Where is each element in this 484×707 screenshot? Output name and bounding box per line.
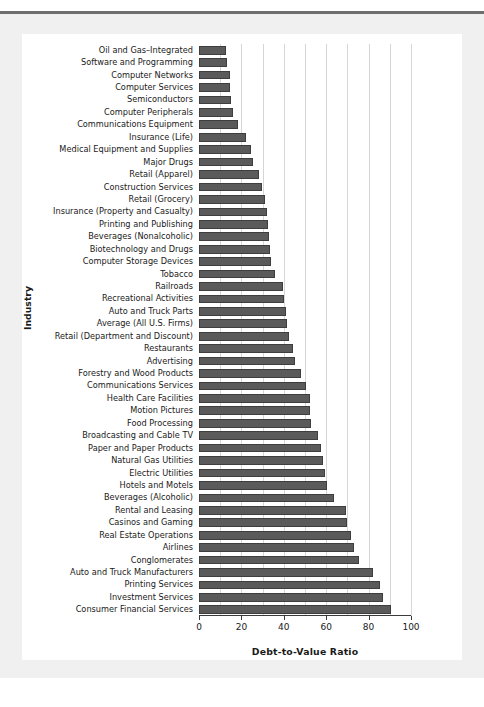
bar-row: Software and Programming bbox=[199, 58, 411, 67]
bar bbox=[199, 431, 318, 440]
bar bbox=[199, 357, 295, 366]
category-label: Computer Services bbox=[115, 83, 193, 91]
x-axis-tick-label: 80 bbox=[363, 622, 374, 632]
bar-row: Insurance (Property and Casualty) bbox=[199, 208, 411, 217]
x-axis-tick-label: 40 bbox=[278, 622, 289, 632]
bar-row: Advertising bbox=[199, 357, 411, 366]
category-label: Computer Networks bbox=[111, 71, 193, 79]
category-label: Software and Programming bbox=[81, 58, 193, 66]
bar bbox=[199, 83, 230, 92]
bar bbox=[199, 270, 275, 279]
category-label: Tobacco bbox=[160, 270, 193, 278]
bar bbox=[199, 605, 391, 614]
category-label: Health Care Facilities bbox=[107, 394, 193, 402]
category-label: Broadcasting and Cable TV bbox=[82, 431, 193, 439]
bar-row: Tobacco bbox=[199, 270, 411, 279]
category-label: Casinos and Gaming bbox=[109, 518, 193, 526]
bar-row: Auto and Truck Parts bbox=[199, 307, 411, 316]
bar-row: Major Drugs bbox=[199, 158, 411, 167]
bar-row: Printing Services bbox=[199, 581, 411, 590]
category-label: Retail (Grocery) bbox=[129, 195, 193, 203]
category-label: Oil and Gas–Integrated bbox=[99, 46, 193, 54]
bar bbox=[199, 307, 286, 316]
x-axis-tick bbox=[241, 616, 242, 620]
bar-row: Paper and Paper Products bbox=[199, 444, 411, 453]
category-label: Motion Pictures bbox=[130, 406, 193, 414]
bar-row: Oil and Gas–Integrated bbox=[199, 46, 411, 55]
category-label: Construction Services bbox=[104, 183, 193, 191]
category-label: Computer Storage Devices bbox=[83, 257, 193, 265]
bar bbox=[199, 469, 325, 478]
bar bbox=[199, 456, 323, 465]
category-label: Printing Services bbox=[124, 580, 193, 588]
bar bbox=[199, 344, 293, 353]
bar-row: Real Estate Operations bbox=[199, 531, 411, 540]
bar-row: Auto and Truck Manufacturers bbox=[199, 568, 411, 577]
bar bbox=[199, 46, 226, 55]
category-label: Insurance (Property and Casualty) bbox=[53, 207, 193, 215]
bar-row: Beverages (Alcoholic) bbox=[199, 494, 411, 503]
bar-row: Biotechnology and Drugs bbox=[199, 245, 411, 254]
category-label: Auto and Truck Manufacturers bbox=[70, 568, 193, 576]
category-label: Semiconductors bbox=[127, 95, 193, 103]
bar bbox=[199, 245, 270, 254]
bar-row: Forestry and Wood Products bbox=[199, 369, 411, 378]
category-label: Consumer Financial Services bbox=[76, 605, 193, 613]
bar-row: Food Processing bbox=[199, 419, 411, 428]
category-label: Rental and Leasing bbox=[115, 506, 193, 514]
bar-row: Casinos and Gaming bbox=[199, 518, 411, 527]
y-axis-label: Industry bbox=[22, 286, 33, 330]
x-axis-tick bbox=[199, 616, 200, 620]
bar bbox=[199, 108, 233, 117]
category-label: Retail (Apparel) bbox=[129, 170, 193, 178]
bar-row: Computer Services bbox=[199, 83, 411, 92]
category-label: Communications Equipment bbox=[77, 120, 193, 128]
category-label: Paper and Paper Products bbox=[88, 444, 193, 452]
category-label: Medical Equipment and Supplies bbox=[59, 145, 193, 153]
category-label: Major Drugs bbox=[143, 158, 193, 166]
category-label: Retail (Department and Discount) bbox=[55, 332, 193, 340]
bar-chart-plot-area: Oil and Gas–IntegratedSoftware and Progr… bbox=[199, 44, 411, 616]
category-label: Communications Services bbox=[87, 381, 193, 389]
x-axis-tick-label: 20 bbox=[236, 622, 247, 632]
gridline bbox=[411, 44, 412, 616]
bar-row: Electric Utilities bbox=[199, 469, 411, 478]
category-label: Advertising bbox=[147, 357, 193, 365]
category-label: Printing and Publishing bbox=[99, 220, 193, 228]
category-label: Recreational Activities bbox=[102, 294, 193, 302]
bar-row: Motion Pictures bbox=[199, 406, 411, 415]
bar-row: Rental and Leasing bbox=[199, 506, 411, 515]
bar-row: Insurance (Life) bbox=[199, 133, 411, 142]
x-axis-tick bbox=[284, 616, 285, 620]
bar bbox=[199, 319, 287, 328]
bar bbox=[199, 170, 259, 179]
bar-row: Printing and Publishing bbox=[199, 220, 411, 229]
bar bbox=[199, 58, 227, 67]
bar-row: Computer Storage Devices bbox=[199, 257, 411, 266]
bar bbox=[199, 208, 267, 217]
category-label: Computer Peripherals bbox=[104, 108, 193, 116]
x-axis-tick bbox=[326, 616, 327, 620]
x-axis-tick-label: 0 bbox=[196, 622, 202, 632]
bar-row: Recreational Activities bbox=[199, 295, 411, 304]
bar bbox=[199, 183, 262, 192]
category-label: Natural Gas Utilities bbox=[111, 456, 193, 464]
bar-row: Retail (Grocery) bbox=[199, 195, 411, 204]
x-axis-tick bbox=[369, 616, 370, 620]
bar-row: Railroads bbox=[199, 282, 411, 291]
bar-row: Communications Services bbox=[199, 382, 411, 391]
bar-row: Computer Peripherals bbox=[199, 108, 411, 117]
bar-row: Airlines bbox=[199, 543, 411, 552]
bar bbox=[199, 406, 310, 415]
bar bbox=[199, 232, 269, 241]
bar-row: Natural Gas Utilities bbox=[199, 456, 411, 465]
bar bbox=[199, 481, 327, 490]
bar bbox=[199, 518, 347, 527]
bar bbox=[199, 581, 380, 590]
bar-row: Consumer Financial Services bbox=[199, 605, 411, 614]
category-label: Electric Utilities bbox=[129, 469, 193, 477]
chart-page: Oil and Gas–IntegratedSoftware and Progr… bbox=[0, 0, 484, 707]
bar bbox=[199, 195, 265, 204]
bar-row: Restaurants bbox=[199, 344, 411, 353]
bar bbox=[199, 295, 284, 304]
